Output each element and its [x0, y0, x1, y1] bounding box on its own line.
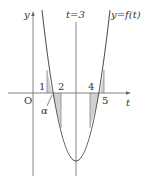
origin-label: O	[24, 95, 32, 106]
function-graph-figure: y t O t=3 y=f(t) 1 2 4 5 α	[0, 0, 146, 180]
tick-label-2: 2	[58, 81, 64, 92]
tick-label-4: 4	[88, 81, 94, 92]
t-axis-arrow-icon	[126, 91, 131, 94]
symmetry-line-label: t=3	[66, 9, 85, 20]
root-label-alpha: α	[41, 105, 48, 116]
t-axis-label: t	[126, 97, 131, 108]
y-axis-label: y	[23, 9, 30, 20]
curve-label: y=f(t)	[110, 9, 141, 20]
tick-label-5: 5	[102, 95, 108, 106]
y-axis-arrow-icon	[31, 11, 34, 16]
tick-label-1: 1	[39, 81, 45, 92]
